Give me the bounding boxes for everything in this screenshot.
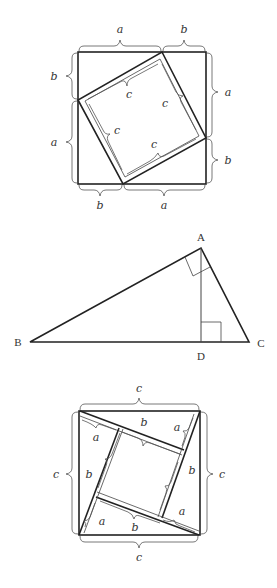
vertex-label-a: A	[197, 231, 205, 243]
right-angle-marker-d	[201, 322, 221, 342]
diagram-square-c-partition: c c c c a b a b b a b a	[53, 382, 225, 564]
brace-b3	[98, 433, 120, 488]
brace-right-c	[201, 412, 213, 534]
brace-a1	[82, 420, 116, 430]
inner-tilted-square	[78, 52, 206, 184]
label-bottom-c: c	[136, 551, 142, 564]
label-b3: b	[85, 468, 92, 481]
label-top-a: a	[117, 23, 124, 36]
brace-top-a	[79, 40, 161, 51]
label-left-c: c	[53, 468, 59, 481]
triangle-abc	[30, 248, 249, 342]
diagram-canvas: a b b a a b b a c c c c A B C D	[0, 0, 277, 588]
brace-left-b	[66, 53, 77, 99]
label-inner-top-c: c	[126, 88, 132, 101]
diagram-right-triangle-altitude: A B C D	[14, 231, 264, 362]
outer-square	[78, 52, 206, 184]
brace-bottom-c	[80, 536, 198, 548]
label-b4: b	[131, 521, 138, 534]
vertex-label-d: D	[197, 350, 205, 362]
brace-right-a	[207, 53, 218, 137]
brace-b1	[122, 432, 180, 454]
label-a2: a	[174, 421, 181, 434]
brace-left-c	[66, 412, 78, 534]
label-inner-bottom-c: c	[151, 138, 157, 151]
brace-bottom-a	[124, 185, 205, 196]
inner-square-offset	[85, 59, 199, 177]
label-right-c: c	[219, 468, 225, 481]
label-b1: b	[140, 416, 147, 429]
label-a3: a	[99, 515, 106, 528]
label-inner-right-c: c	[162, 97, 168, 110]
brace-top-c	[80, 398, 199, 410]
brace-left-a	[66, 101, 77, 183]
brace-inner-left-c	[89, 104, 122, 170]
label-right-b: b	[224, 154, 231, 167]
label-left-a: a	[51, 136, 58, 149]
brace-right-b	[207, 139, 218, 183]
label-top-b: b	[180, 23, 187, 36]
brace-top-b	[163, 40, 205, 51]
vertex-label-c: C	[257, 337, 264, 349]
label-inner-left-c: c	[114, 124, 120, 137]
label-a4: a	[179, 505, 186, 518]
vertex-label-b: B	[14, 336, 21, 348]
brace-inner-top-c	[88, 64, 158, 99]
label-b2: b	[188, 464, 195, 477]
diagram-square-a-plus-b: a b b a a b b a c c c c	[50, 23, 231, 212]
label-bottom-a: a	[161, 199, 168, 212]
brace-bottom-b	[79, 185, 122, 196]
brace-a4	[163, 520, 195, 532]
label-bottom-b: b	[96, 199, 103, 212]
brace-inner-bottom-c	[127, 139, 196, 174]
label-a1: a	[93, 431, 100, 444]
label-right-a: a	[225, 86, 232, 99]
label-top-c: c	[136, 382, 142, 395]
label-left-b: b	[50, 70, 57, 83]
